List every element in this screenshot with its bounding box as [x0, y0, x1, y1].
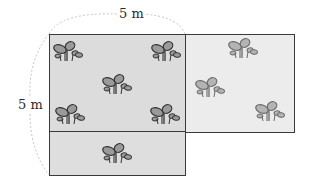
sprout-icon [194, 76, 228, 100]
top-width-label: 5 m [117, 7, 146, 21]
sprout-icon [52, 40, 86, 64]
sprout-icon [150, 40, 184, 64]
sprout-icon [101, 142, 135, 166]
sprout-icon [254, 100, 288, 124]
sprout-icon [54, 103, 88, 127]
sprout-icon [101, 73, 135, 97]
sprout-icon [227, 37, 261, 61]
garden-diagram: 5 m 5 m [0, 0, 314, 182]
sprout-icon [149, 103, 183, 127]
left-height-label: 5 m [16, 98, 45, 112]
